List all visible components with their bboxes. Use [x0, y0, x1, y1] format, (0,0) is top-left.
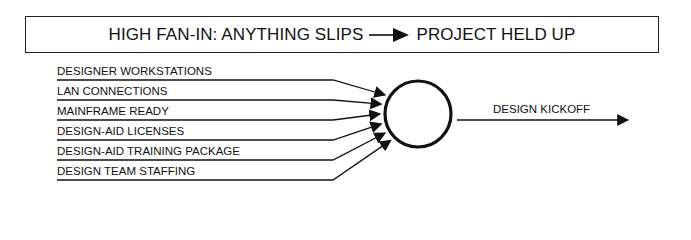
- input-label: DESIGN-AID TRAINING PACKAGE: [57, 146, 240, 158]
- milestone-node: [385, 81, 451, 147]
- output-label: DESIGN KICKOFF: [493, 104, 590, 116]
- input-label: MAINFRAME READY: [57, 106, 169, 118]
- input-label: LAN CONNECTIONS: [57, 86, 168, 98]
- input-label: DESIGN TEAM STAFFING: [57, 166, 195, 178]
- input-label: DESIGNER WORKSTATIONS: [57, 66, 212, 78]
- input-arrow: [57, 100, 381, 104]
- input-label: DESIGN-AID LICENSES: [57, 126, 184, 138]
